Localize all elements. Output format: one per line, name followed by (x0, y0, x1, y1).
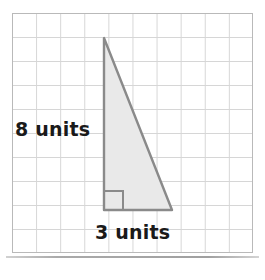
page-bottom-rule (6, 256, 259, 258)
figure-root: 8 units 3 units (0, 0, 265, 280)
height-label: 8 units (15, 117, 90, 141)
base-label: 3 units (95, 220, 170, 244)
right-triangle-shape (104, 38, 172, 210)
